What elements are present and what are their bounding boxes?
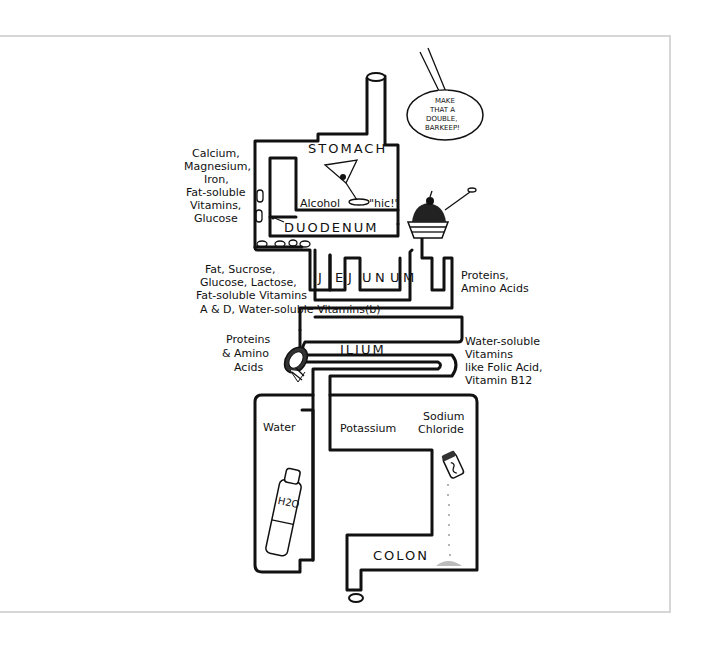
stomach-label: STOMACH: [308, 141, 387, 156]
svg-text:U: U: [390, 270, 402, 285]
svg-text:J: J: [317, 270, 324, 285]
salt-shaker-icon: [441, 450, 464, 479]
ilium-label: ILIUM: [340, 342, 386, 357]
svg-text:Amino Acids: Amino Acids: [461, 282, 529, 295]
svg-text:Proteins: Proteins: [226, 333, 271, 346]
ilium: ILIUM: [280, 317, 462, 395]
svg-text:Iron,: Iron,: [204, 173, 229, 186]
colon-exit-icon: [349, 594, 363, 602]
duodenum-absorption-label: Calcium, Magnesium, Iron, Fat-soluble Vi…: [184, 147, 251, 225]
stomach: STOMACH Alcohol "hic!": [270, 141, 400, 217]
svg-text:Calcium,: Calcium,: [192, 147, 240, 160]
svg-text:Acids: Acids: [234, 361, 263, 374]
svg-text:M: M: [403, 270, 416, 285]
water-label: Water: [263, 421, 296, 434]
ilium-absorption-label-right: Water-soluble Vitamins like Folic Acid, …: [465, 335, 543, 387]
svg-text:Proteins,: Proteins,: [461, 269, 509, 282]
sodium-label: Sodium: [423, 410, 464, 423]
svg-text:J: J: [347, 270, 354, 285]
svg-text:Vitamin B12: Vitamin B12: [465, 374, 532, 387]
svg-text:like Folic Acid,: like Folic Acid,: [465, 361, 543, 374]
svg-text:Vitamins,: Vitamins,: [190, 199, 241, 212]
hic-label: "hic!": [369, 197, 400, 210]
digestive-tract-diagram: STOMACH Alcohol "hic!" DUODENUM Calcium,: [0, 0, 708, 647]
svg-text:Vitamins: Vitamins: [465, 348, 513, 361]
svg-text:Fat, Sucrose,: Fat, Sucrose,: [205, 263, 275, 276]
svg-text:U: U: [362, 270, 374, 285]
svg-text:Glucose, Lactose,: Glucose, Lactose,: [200, 276, 297, 289]
svg-text:Glucose: Glucose: [194, 212, 238, 225]
chloride-label: Chloride: [418, 423, 464, 436]
svg-text:Fat-soluble: Fat-soluble: [186, 186, 246, 199]
svg-text:MAKE: MAKE: [435, 97, 455, 105]
svg-text:Magnesium,: Magnesium,: [184, 160, 251, 173]
svg-text:Water-soluble: Water-soluble: [465, 335, 540, 348]
ice-cream-sundae-icon: [408, 188, 476, 238]
svg-text:DOUBLE,: DOUBLE,: [426, 115, 457, 123]
duodenum-label: DUODENUM: [284, 220, 378, 235]
svg-text:N: N: [375, 270, 387, 285]
potassium-label: Potassium: [340, 422, 396, 435]
svg-text:BARKEEP!: BARKEEP!: [425, 124, 460, 132]
alcohol-label: Alcohol: [300, 197, 340, 210]
jejunum-letters: J E J U N U M: [317, 270, 416, 285]
svg-text:A & D, Water-soluble Vitamins: A & D, Water-soluble Vitamins(b): [200, 303, 381, 316]
colon-label: COLON: [373, 548, 429, 563]
esophagus-opening-icon: [367, 73, 385, 81]
water-bottle-icon: H2O: [265, 467, 306, 557]
svg-text:& Amino: & Amino: [222, 347, 269, 360]
svg-text:E: E: [335, 270, 345, 285]
colon: COLON Water Potassium Sodium Chloride H2…: [255, 395, 477, 602]
svg-text:Fat-soluble Vitamins: Fat-soluble Vitamins: [196, 289, 307, 302]
speech-bubble: MAKE THAT A DOUBLE, BARKEEP!: [407, 48, 483, 140]
svg-text:THAT A: THAT A: [429, 106, 455, 114]
jejunum-absorption-label-right: Proteins, Amino Acids: [461, 269, 529, 295]
ilium-absorption-label-left: Proteins & Amino Acids: [222, 333, 271, 374]
salt-stream: [436, 484, 462, 566]
